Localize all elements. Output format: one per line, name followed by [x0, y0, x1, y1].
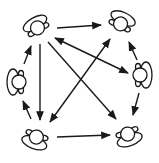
person-a-icon: [21, 12, 53, 41]
person-b-icon: [106, 8, 138, 36]
arrow-c-to-b: [129, 42, 137, 60]
arrow-c-to-f: [133, 93, 139, 115]
arrow-e-to-d: [23, 101, 31, 119]
sociogram-diagram: [0, 0, 159, 163]
person-e-icon: [20, 126, 51, 153]
arrow-e-b-bidirectional: [50, 39, 110, 122]
arrow-e-to-f: [57, 135, 110, 137]
arrow-a-to-f: [48, 42, 116, 119]
person-c-icon: [133, 62, 152, 88]
arrow-d-to-a: [24, 46, 31, 64]
arrow-a-c-bidirectional: [55, 38, 128, 73]
person-f-icon: [113, 123, 144, 150]
arrow-a-to-b: [57, 25, 101, 28]
edges: [23, 25, 139, 137]
person-d-icon: [7, 69, 26, 95]
